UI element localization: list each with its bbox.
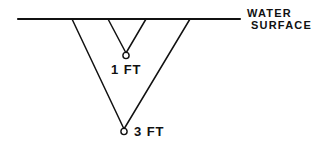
water-surface-label-line-1: WATER bbox=[247, 7, 312, 19]
inner-sounding-right-leg bbox=[126, 19, 146, 53]
inner-sounding-apex-marker bbox=[123, 52, 129, 58]
outer-depth-label: 3 FT bbox=[134, 125, 164, 140]
inner-sounding-left-leg bbox=[108, 19, 126, 53]
outer-sounding-apex-marker bbox=[121, 128, 127, 134]
water-surface-label: WATER SURFACE bbox=[247, 7, 312, 32]
water-surface-label-line-2: SURFACE bbox=[247, 19, 312, 31]
inner-depth-label: 1 FT bbox=[111, 63, 141, 78]
depth-diagram: 1 FT 3 FT WATER SURFACE bbox=[0, 0, 326, 150]
